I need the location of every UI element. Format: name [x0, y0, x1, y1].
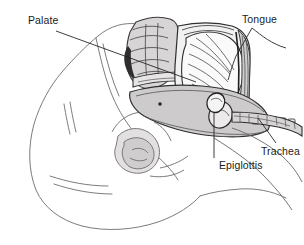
leader-line-tongue-tail	[252, 28, 286, 48]
label-palate: Palate	[28, 15, 58, 26]
anatomy-illustration	[0, 0, 304, 245]
label-trachea: Trachea	[261, 146, 300, 157]
label-epiglottis: Epiglottis	[219, 160, 263, 171]
anatomy-figure: Palate Tongue Epiglottis Trachea	[0, 0, 304, 245]
epiglottis	[207, 93, 225, 112]
label-tongue: Tongue	[242, 14, 277, 25]
